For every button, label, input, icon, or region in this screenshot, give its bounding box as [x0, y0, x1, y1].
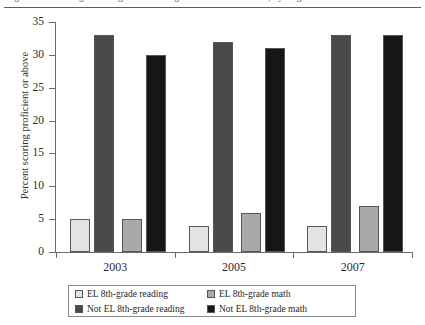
bar — [213, 42, 233, 252]
legend-label: EL 8th-grade math — [219, 289, 290, 299]
x-axis-tick — [412, 252, 413, 258]
legend-label: EL 8th-grade reading — [87, 289, 168, 299]
bar — [307, 226, 327, 252]
x-axis-tick — [293, 252, 294, 258]
y-axis-tick-label: 0 — [4, 246, 44, 258]
bar — [331, 35, 351, 252]
bar — [94, 35, 114, 252]
legend-item-el_reading: EL 8th-grade reading — [75, 286, 207, 301]
y-axis-tick-label: 10 — [4, 180, 44, 192]
bar — [146, 55, 166, 252]
y-axis-tick — [49, 88, 55, 89]
y-axis-tick-label: 25 — [4, 82, 44, 94]
y-axis-tick — [49, 153, 55, 154]
x-axis-tick-label: 2003 — [70, 260, 160, 274]
x-axis-tick — [56, 252, 57, 258]
legend-label: Not EL 8th-grade reading — [87, 304, 185, 314]
bar — [383, 35, 403, 252]
bar — [359, 206, 379, 252]
y-axis-tick — [49, 55, 55, 56]
bar — [189, 226, 209, 252]
legend-swatch-notel_math — [207, 305, 215, 313]
legend-swatch-el_reading — [75, 290, 83, 298]
y-axis-tick-label: 30 — [4, 49, 44, 61]
y-axis-tick-label: 35 — [4, 16, 44, 28]
figure-top-rule — [4, 7, 421, 8]
x-axis-tick-label: 2007 — [308, 260, 398, 274]
bar — [70, 219, 90, 252]
legend-swatch-el_math — [207, 290, 215, 298]
y-axis-tick — [49, 186, 55, 187]
legend-item-notel_math: Not EL 8th-grade math — [207, 301, 363, 316]
bar — [122, 219, 142, 252]
legend-label: Not EL 8th-grade math — [219, 304, 307, 314]
y-axis-tick — [49, 219, 55, 220]
legend-swatch-notel_reading — [75, 305, 83, 313]
x-axis-line — [55, 252, 413, 253]
y-axis-tick-label: 15 — [4, 147, 44, 159]
bar — [241, 213, 261, 252]
y-axis-tick-label: 20 — [4, 115, 44, 127]
bar — [265, 48, 285, 252]
x-axis-tick — [175, 252, 176, 258]
y-axis-tick — [49, 252, 55, 253]
chart-legend: EL 8th-grade readingEL 8th-grade mathNot… — [68, 285, 356, 317]
x-axis-tick-label: 2005 — [189, 260, 279, 274]
figure-caption-clipped: Figure 1. Percentage of 8th-graders scor… — [6, 0, 419, 3]
plot-area — [56, 22, 412, 252]
y-axis-tick-label: 5 — [4, 213, 44, 225]
legend-item-el_math: EL 8th-grade math — [207, 286, 363, 301]
y-axis-tick — [49, 22, 55, 23]
legend-item-notel_reading: Not EL 8th-grade reading — [75, 301, 207, 316]
y-axis-tick — [49, 121, 55, 122]
figure-container: Figure 1. Percentage of 8th-graders scor… — [0, 0, 425, 325]
